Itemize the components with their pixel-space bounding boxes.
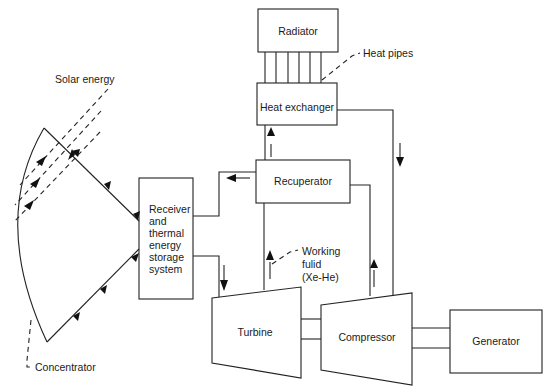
working-fluid-label: Working fulid (Xe-He) xyxy=(302,245,340,283)
svg-text:system: system xyxy=(149,263,183,275)
svg-text:Turbine: Turbine xyxy=(237,326,272,338)
receiver-to-turbine-line xyxy=(193,256,219,298)
heat-pipes-leader xyxy=(322,53,360,80)
svg-text:Radiator: Radiator xyxy=(278,25,318,37)
concentrator xyxy=(18,128,140,342)
concentrator-leader xyxy=(27,320,32,367)
receiver-box: Receiver and thermal energy storage syst… xyxy=(139,178,193,299)
recuperator-box: Recuperator xyxy=(256,160,350,203)
svg-text:fulid: fulid xyxy=(302,258,321,270)
compressor: Compressor xyxy=(321,293,412,385)
rt-down-arrow-icon xyxy=(220,280,228,291)
svg-text:thermal: thermal xyxy=(149,227,184,239)
solar-energy-rays xyxy=(14,89,108,222)
solar-dynamic-power-diagram: Radiator Heat pipes Heat exchanger Recup… xyxy=(0,0,547,387)
svg-text:storage: storage xyxy=(149,251,184,263)
svg-text:Compressor: Compressor xyxy=(338,331,396,343)
heat-exchanger-box: Heat exchanger xyxy=(257,83,337,125)
solar-energy-label: Solar energy xyxy=(55,73,115,85)
svg-text:Working: Working xyxy=(302,245,340,257)
generator-box: Generator xyxy=(450,310,542,373)
concentrator-label: Concentrator xyxy=(35,361,96,373)
heat-pipes-label: Heat pipes xyxy=(363,47,413,59)
working-fluid-leader xyxy=(272,250,298,264)
svg-text:energy: energy xyxy=(149,239,182,251)
reflected-ray-upper xyxy=(44,128,139,221)
svg-text:Generator: Generator xyxy=(472,335,520,347)
reflected-ray-lower xyxy=(47,249,139,342)
radiator-box: Radiator xyxy=(258,9,338,52)
comp-up-arrow-icon xyxy=(370,259,378,268)
svg-text:Heat exchanger: Heat exchanger xyxy=(260,101,335,113)
down-arrow-icon xyxy=(396,157,404,167)
recup-to-receiver-line xyxy=(193,172,256,216)
recup-to-compressor-line xyxy=(350,185,370,296)
svg-text:and: and xyxy=(149,215,167,227)
svg-text:Recuperator: Recuperator xyxy=(274,175,332,187)
svg-text:Receiver: Receiver xyxy=(149,203,191,215)
turbine: Turbine xyxy=(212,287,301,378)
left-arrow-icon xyxy=(226,174,236,182)
heat-pipes xyxy=(265,52,321,83)
wf-up-arrow-icon xyxy=(266,250,274,260)
up-arrow-icon xyxy=(267,127,275,136)
svg-text:(Xe-He): (Xe-He) xyxy=(302,271,339,283)
